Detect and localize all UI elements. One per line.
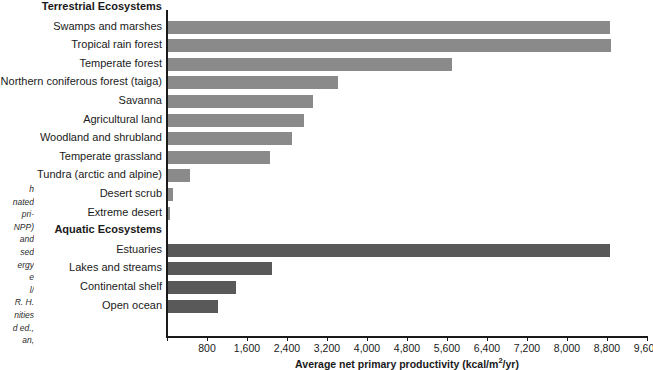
chart-bar[interactable] [167, 76, 338, 89]
x-axis-tick [287, 336, 288, 341]
x-axis-title: Average net primary productivity (kcal/m… [167, 356, 647, 370]
bar-category-label: Savanna [0, 94, 162, 106]
bar-category-label: Open ocean [0, 299, 162, 311]
bar-category-label: Woodland and shrubland [0, 131, 162, 143]
bar-category-label: Lakes and streams [0, 261, 162, 273]
x-axis-tick-label: 9,600 [634, 342, 653, 354]
bar-category-label: Swamps and marshes [0, 20, 162, 32]
bar-category-label: Estuaries [0, 243, 162, 255]
x-axis-tick-label: 8,800 [594, 342, 620, 354]
x-axis-title-main: Average net primary productivity (kcal/m [295, 358, 498, 370]
group-header-label: Terrestrial Ecosystems [0, 0, 162, 12]
chart-bar[interactable] [167, 114, 304, 127]
chart-bar[interactable] [167, 300, 218, 313]
x-axis-tick [487, 336, 488, 341]
x-axis-tick-label: 4,800 [394, 342, 420, 354]
bar-category-label: Northern coniferous forest (taiga) [0, 75, 162, 87]
x-axis-tick [647, 336, 648, 341]
chart-bar[interactable] [167, 58, 452, 71]
bar-category-label: Agricultural land [0, 113, 162, 125]
chart-bar[interactable] [167, 39, 611, 52]
x-axis-tick [527, 336, 528, 341]
x-axis-tick [607, 336, 608, 341]
bar-category-label: Extreme desert [0, 206, 162, 218]
figure-root: h nated pri- NPP) and sed ergy e l/ R. H… [0, 0, 653, 370]
bar-category-label: Desert scrub [0, 187, 162, 199]
bar-category-label: Tropical rain forest [0, 38, 162, 50]
chart-bar[interactable] [167, 21, 610, 34]
x-axis-tick [247, 336, 248, 341]
x-axis-tick [327, 336, 328, 341]
bar-category-label: Continental shelf [0, 280, 162, 292]
x-axis-tick [207, 336, 208, 341]
x-axis-tick [167, 336, 168, 341]
chart-bar[interactable] [167, 262, 272, 275]
chart-bar[interactable] [167, 132, 292, 145]
npp-bar-chart: Terrestrial EcosystemsSwamps and marshes… [0, 0, 653, 370]
x-axis-tick-label: 5,600 [434, 342, 460, 354]
x-axis-tick-label: 2,400 [274, 342, 300, 354]
bar-category-label: Tundra (arctic and alpine) [0, 168, 162, 180]
x-axis-tick-label: 3,200 [314, 342, 340, 354]
x-axis-tick [447, 336, 448, 341]
chart-bar[interactable] [167, 169, 190, 182]
group-header-label: Aquatic Ecosystems [0, 223, 162, 235]
chart-bar[interactable] [167, 281, 236, 294]
chart-bar[interactable] [167, 244, 610, 257]
bar-category-label: Temperate forest [0, 57, 162, 69]
x-axis-tick-label: 7,200 [514, 342, 540, 354]
x-axis-tick-label: 4,000 [354, 342, 380, 354]
x-axis-title-tail: /yr) [503, 358, 519, 370]
x-axis-tick [367, 336, 368, 341]
x-axis-tick-label: 1,600 [234, 342, 260, 354]
chart-bar[interactable] [167, 151, 270, 164]
x-axis-tick [567, 336, 568, 341]
y-axis-line [166, 10, 168, 337]
x-axis-tick [407, 336, 408, 341]
x-axis-tick-label: 6,400 [474, 342, 500, 354]
bar-category-label: Temperate grassland [0, 150, 162, 162]
x-axis-tick-label: 8,000 [554, 342, 580, 354]
x-axis-tick-label: 800 [198, 342, 216, 354]
chart-bar[interactable] [167, 95, 313, 108]
